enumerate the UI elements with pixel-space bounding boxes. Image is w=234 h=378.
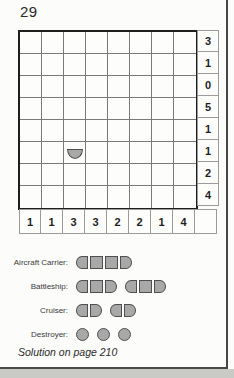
grid-cell (130, 164, 152, 186)
ship-segment-circle-icon (118, 328, 131, 341)
grid-cell (174, 98, 196, 120)
row-clue: 0 (197, 74, 219, 96)
grid-cell (174, 164, 196, 186)
legend-ship-icon (76, 304, 102, 317)
column-clue: 2 (107, 209, 129, 234)
column-clue: 1 (151, 209, 173, 234)
grid-cell (64, 164, 86, 186)
grid-cell (174, 186, 196, 208)
grid-cell (64, 32, 86, 54)
column-clue: 4 (173, 209, 195, 234)
legend-label: Cruiser: (0, 306, 68, 315)
grid-cell (20, 164, 42, 186)
grid-cell (64, 186, 86, 208)
ship-segment-mid-icon (90, 280, 103, 293)
ship-segment-cap-right-icon (105, 280, 117, 293)
grid-cell (20, 32, 42, 54)
legend-row: Destroyer: (0, 322, 226, 346)
grid-cell (86, 186, 108, 208)
grid-cell (108, 164, 130, 186)
grid-cell (42, 32, 64, 54)
legend-ship-icon (76, 328, 89, 341)
grid-cell (86, 164, 108, 186)
legend-row: Cruiser: (0, 298, 226, 322)
grid-cell (64, 98, 86, 120)
grid-cell (86, 142, 108, 164)
grid-cell (152, 32, 174, 54)
grid-cell (86, 32, 108, 54)
grid-cell (42, 164, 64, 186)
column-clue: 3 (63, 209, 85, 234)
grid-cell (42, 142, 64, 164)
grid-cell (42, 54, 64, 76)
ship-segment-mid-icon (139, 280, 152, 293)
grid-cell (174, 32, 196, 54)
solution-note: Solution on page 210 (18, 346, 117, 358)
ship-segment-cap-left-icon (76, 304, 88, 317)
ship-segment-cap-left-icon (125, 280, 137, 293)
grid-cell (20, 142, 42, 164)
bottom-clues: 11332214 (19, 209, 217, 234)
grid-cell (130, 186, 152, 208)
grid-cell (152, 164, 174, 186)
legend-ship-icon (76, 280, 117, 293)
grid-cell (86, 120, 108, 142)
grid-cell (108, 98, 130, 120)
column-clue: 1 (41, 209, 63, 234)
row-clue: 5 (197, 96, 219, 118)
grid-cell (130, 32, 152, 54)
corner-cell (195, 209, 217, 234)
ship-segment-cap-left-icon (76, 280, 88, 293)
page-edge-line-vertical (226, 0, 228, 368)
grid-cell (174, 54, 196, 76)
grid-cell (130, 98, 152, 120)
grid-cell (86, 76, 108, 98)
grid-cell (42, 76, 64, 98)
grid-cell (64, 76, 86, 98)
legend-ship-icon (110, 304, 136, 317)
grid-cell (42, 98, 64, 120)
puzzle-number: 29 (20, 3, 38, 20)
legend-row: Battleship: (0, 274, 226, 298)
ship-segment-cap-left-icon (76, 256, 88, 269)
row-clue: 2 (197, 162, 219, 184)
row-clue: 3 (197, 30, 219, 52)
grid-cell (20, 120, 42, 142)
ship-segment-cap-right-icon (154, 280, 166, 293)
grid-cell (20, 76, 42, 98)
row-clue: 1 (197, 52, 219, 74)
legend-row: Aircraft Carrier: (0, 250, 226, 274)
column-clue: 1 (19, 209, 41, 234)
legend-label: Destroyer: (0, 330, 68, 339)
row-clue: 4 (197, 184, 219, 206)
grid-cell (152, 120, 174, 142)
ship-segment-mid-icon (90, 256, 103, 269)
grid-cell (42, 120, 64, 142)
legend-ships (76, 280, 166, 293)
grid-cell (130, 54, 152, 76)
legend-ship-icon (125, 280, 166, 293)
puzzle-page: 29 31051124 11332214 Aircraft Carrier:Ba… (0, 0, 234, 378)
grid-cell (86, 54, 108, 76)
ship-segment-cap-left-icon (110, 304, 122, 317)
grid-cell (64, 120, 86, 142)
legend-ship-icon (97, 328, 110, 341)
grid-cell (152, 76, 174, 98)
grid-cell (130, 120, 152, 142)
row-clue: 1 (197, 118, 219, 140)
legend-ships (76, 328, 131, 341)
grid-cell (130, 142, 152, 164)
grid-cell (108, 32, 130, 54)
grid-cell (108, 54, 130, 76)
grid-cell (174, 76, 196, 98)
grid-cell (152, 54, 174, 76)
grid-cell (86, 98, 108, 120)
legend-label: Battleship: (0, 282, 68, 291)
column-clue: 2 (129, 209, 151, 234)
ship-piece-icon (67, 149, 83, 159)
page-edge-shadow (0, 369, 234, 378)
legend-ship-icon (118, 328, 131, 341)
row-clue: 1 (197, 140, 219, 162)
grid-cell (152, 98, 174, 120)
battleship-grid (18, 30, 198, 210)
